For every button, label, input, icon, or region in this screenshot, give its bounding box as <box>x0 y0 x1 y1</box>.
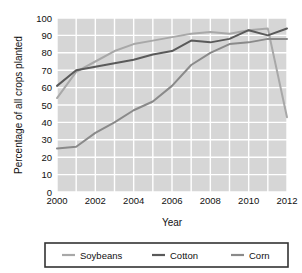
legend-label-soybeans[interactable]: Soybeans <box>80 250 123 261</box>
x-axis-tick-labels: 2000200220042006200820102012 <box>46 195 297 206</box>
x-tick-label: 2008 <box>200 195 221 206</box>
y-axis-tick-labels: 0102030405060708090100 <box>36 13 52 198</box>
y-tick-label: 60 <box>41 82 52 93</box>
x-axis-title: Year <box>162 217 183 228</box>
y-tick-label: 80 <box>41 47 52 58</box>
x-tick-label: 2004 <box>123 195 144 206</box>
legend-label-corn[interactable]: Corn <box>249 250 270 261</box>
line-chart: 0102030405060708090100 20002002200420062… <box>0 0 302 273</box>
x-tick-label: 2006 <box>161 195 182 206</box>
y-tick-label: 70 <box>41 65 52 76</box>
chart-container: 0102030405060708090100 20002002200420062… <box>0 0 302 273</box>
y-tick-label: 50 <box>41 100 52 111</box>
x-tick-label: 2000 <box>46 195 67 206</box>
x-tick-label: 2002 <box>85 195 106 206</box>
y-tick-label: 40 <box>41 117 52 128</box>
y-tick-label: 100 <box>36 13 52 24</box>
y-tick-label: 30 <box>41 134 52 145</box>
y-axis-title: Percentage of all crops planted <box>13 36 24 174</box>
x-tick-label: 2012 <box>276 195 297 206</box>
x-tick-label: 2010 <box>238 195 259 206</box>
legend: SoybeansCottonCorn <box>45 243 288 267</box>
legend-label-cotton[interactable]: Cotton <box>170 250 198 261</box>
y-tick-label: 90 <box>41 30 52 41</box>
y-tick-label: 20 <box>41 152 52 163</box>
y-tick-label: 10 <box>41 169 52 180</box>
